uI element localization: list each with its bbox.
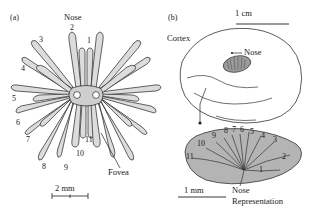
cortex-sulcus-1	[187, 75, 258, 87]
ray-label-2: 2	[70, 24, 74, 32]
star-nose-diagram	[0, 0, 160, 215]
segment-label-8: 8	[224, 127, 228, 135]
scale-bar-2mm-label: 2 mm	[55, 184, 75, 193]
cortex-nose-label: Nose	[244, 48, 261, 57]
segment-label-3: 3	[273, 136, 277, 144]
ray-label-10: 10	[76, 150, 84, 158]
enlargement-connector	[200, 88, 206, 122]
segment-label-2: 2	[282, 153, 286, 161]
ray-label-5: 5	[12, 95, 16, 103]
ray-left-8	[38, 99, 73, 160]
scale-bar-2mm	[52, 193, 88, 199]
ray-label-7: 7	[26, 136, 30, 144]
scale-bar-1mm-label: 1 mm	[184, 186, 204, 195]
segment-label-5: 5	[250, 128, 254, 136]
nostril-right	[93, 92, 100, 99]
ray-label-3: 3	[39, 36, 43, 44]
enlargement-connector-dot	[198, 121, 201, 124]
segment-label-10: 10	[197, 140, 205, 148]
fovea-label: Fovea	[108, 168, 129, 177]
ray-label-4: 4	[21, 65, 25, 73]
ray-right-8	[99, 99, 134, 160]
cortex-sulcus-2	[194, 93, 272, 104]
segment-label-7: 7	[232, 126, 236, 134]
cortex-nose-point	[231, 52, 233, 54]
nostril-left	[74, 92, 81, 99]
segment-label-11: 11	[186, 153, 194, 161]
panel-a: (a) Nose 2 1 3 4 5 6 7 8 9 10 11 Fovea 2…	[0, 0, 160, 215]
nose-representation-label-line2: Representation	[232, 197, 283, 206]
ray-10	[72, 103, 81, 147]
figure-container: (a) Nose 2 1 3 4 5 6 7 8 9 10 11 Fovea 2…	[0, 0, 320, 215]
segment-label-6: 6	[240, 126, 244, 134]
panel-b-tag: (b)	[168, 14, 177, 22]
segment-label-1: 1	[259, 166, 263, 174]
ray-label-1: 1	[87, 37, 91, 45]
scale-bar-1cm-label: 1 cm	[235, 9, 252, 18]
ray-label-8: 8	[42, 163, 46, 171]
segment-label-9: 9	[212, 132, 216, 140]
nose-title-label: Nose	[64, 13, 81, 22]
ray-label-9: 9	[64, 164, 68, 172]
cortex-label: Cortex	[167, 34, 190, 43]
ray-label-11: 11	[85, 136, 93, 144]
ray-label-6: 6	[16, 119, 20, 127]
nose-representation-label-line1: Nose	[232, 186, 249, 195]
panel-a-tag: (a)	[10, 14, 19, 22]
panel-b: (b) 1 cm Cortex Nose 11 10 9 8 7 6 5 4 3…	[160, 0, 320, 215]
segment-label-4: 4	[261, 132, 265, 140]
